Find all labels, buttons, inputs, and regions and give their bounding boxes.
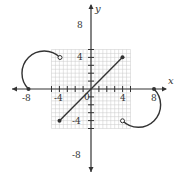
x-tick-label: -8 bbox=[22, 93, 31, 103]
y-axis-up-arrow-icon bbox=[89, 4, 94, 9]
y-tick-label: 4 bbox=[77, 52, 83, 62]
left-arc bbox=[22, 51, 60, 89]
y-tick-label: -8 bbox=[72, 150, 81, 160]
closed-endpoint bbox=[27, 87, 31, 91]
y-tick-label: 8 bbox=[77, 20, 83, 30]
open-endpoint bbox=[58, 56, 62, 60]
y-axis-label: y bbox=[94, 3, 101, 14]
y-tick-label: -4 bbox=[72, 116, 81, 126]
x-axis: x bbox=[12, 75, 174, 92]
closed-endpoint bbox=[152, 87, 156, 91]
x-axis-right-arrow-icon bbox=[162, 87, 167, 92]
open-endpoint bbox=[121, 119, 125, 123]
x-axis-left-arrow-icon bbox=[12, 87, 17, 92]
x-tick-label: -4 bbox=[54, 93, 63, 103]
y-axis-down-arrow-icon bbox=[89, 167, 94, 172]
x-tick-label: 8 bbox=[151, 93, 157, 103]
closed-endpoint bbox=[58, 119, 62, 123]
closed-endpoint bbox=[121, 55, 125, 59]
x-axis-label: x bbox=[168, 75, 174, 86]
function-graph: x y -8 -4 4 8 8 4 -4 -8 0 bbox=[0, 0, 175, 175]
x-tick-label: 4 bbox=[120, 93, 126, 103]
